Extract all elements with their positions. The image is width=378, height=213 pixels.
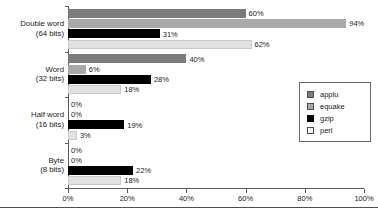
x-axis-tick <box>305 189 306 193</box>
bar-perl <box>68 85 121 94</box>
x-axis-tick-label: 100% <box>354 194 373 203</box>
bar-applu <box>68 9 246 18</box>
chart-legend: appluequakegzipperl <box>299 82 371 142</box>
legend-item-label: applu <box>320 90 338 99</box>
x-axis-tick <box>127 189 128 193</box>
legend-item-label: gzip <box>320 114 334 123</box>
category-label-line: Byte <box>0 156 64 166</box>
bar-perl <box>68 40 252 49</box>
x-axis-tick-label: 40% <box>179 194 194 203</box>
bar-value-label: 62% <box>255 40 270 49</box>
bar-value-label: 0% <box>71 100 82 109</box>
legend-item-gzip[interactable]: gzip <box>307 112 364 124</box>
category-label-line: Double word <box>0 19 64 29</box>
x-axis-tick <box>186 189 187 193</box>
x-axis-tick <box>246 189 247 193</box>
bar-gzip <box>68 75 151 84</box>
bar-gzip <box>68 29 160 38</box>
bar-value-label: 31% <box>163 30 178 39</box>
x-axis-tick-label: 60% <box>238 194 253 203</box>
x-axis-tick-label: 0% <box>63 194 74 203</box>
category-label: Word(32 bits) <box>0 65 64 84</box>
bar-value-label: 0% <box>71 110 82 119</box>
category-label-line: (64 bits) <box>0 29 64 39</box>
bar-applu <box>68 54 186 63</box>
bar-value-label: 22% <box>136 166 151 175</box>
bar-gzip <box>68 120 124 129</box>
bar-value-label: 6% <box>89 65 100 74</box>
x-axis-tick-label: 80% <box>297 194 312 203</box>
bar-value-label: 18% <box>124 176 139 185</box>
x-axis-tick <box>68 189 69 193</box>
legend-swatch-icon <box>307 115 314 122</box>
legend-swatch-icon <box>307 91 314 98</box>
y-axis-tick <box>65 52 68 53</box>
category-label-line: Word <box>0 65 64 75</box>
legend-item-label: equake <box>320 102 345 111</box>
bar-perl <box>68 176 121 185</box>
category-label: Byte(8 bits) <box>0 156 64 175</box>
bar-gzip <box>68 166 133 175</box>
category-label-line: (32 bits) <box>0 74 64 84</box>
bar-value-label: 94% <box>349 19 364 28</box>
bar-value-label: 19% <box>127 121 142 130</box>
legend-swatch-icon <box>307 103 314 110</box>
x-axis-tick-label: 20% <box>120 194 135 203</box>
category-label-line: (16 bits) <box>0 120 64 130</box>
bar-perl <box>68 131 77 140</box>
bar-value-label: 40% <box>189 55 204 64</box>
bar-value-label: 0% <box>71 146 82 155</box>
chart-figure: 0%20%40%60%80%100% Double word(64 bits)W… <box>0 0 378 213</box>
x-axis-line <box>68 188 364 189</box>
legend-swatch-icon <box>307 127 314 134</box>
bar-value-label: 0% <box>71 156 82 165</box>
y-axis-tick <box>65 143 68 144</box>
legend-item-perl[interactable]: perl <box>307 124 364 136</box>
x-axis-tick <box>364 189 365 193</box>
legend-item-applu[interactable]: applu <box>307 88 364 100</box>
y-axis-tick <box>65 97 68 98</box>
category-label: Double word(64 bits) <box>0 19 64 38</box>
legend-item-equake[interactable]: equake <box>307 100 364 112</box>
bar-value-label: 18% <box>124 85 139 94</box>
bar-value-label: 3% <box>80 131 91 140</box>
category-label-line: Half word <box>0 110 64 120</box>
category-label: Half word(16 bits) <box>0 110 64 129</box>
bar-equake <box>68 65 86 74</box>
category-label-line: (8 bits) <box>0 165 64 175</box>
bar-value-label: 28% <box>154 75 169 84</box>
legend-item-label: perl <box>320 126 333 135</box>
bar-equake <box>68 19 346 28</box>
footer-divider <box>0 207 378 208</box>
y-axis-tick <box>65 6 68 7</box>
bar-value-label: 60% <box>249 9 264 18</box>
